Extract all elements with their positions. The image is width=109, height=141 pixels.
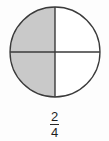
fraction-denominator: 4: [50, 126, 59, 139]
fraction-circle-diagram: 2 4: [0, 0, 109, 141]
fraction-label: 2 4: [0, 110, 109, 139]
circle-quadrants-graphic: [9, 6, 101, 99]
fraction-circle: [9, 6, 101, 99]
fraction-numerator: 2: [50, 110, 59, 123]
fraction-stack: 2 4: [50, 110, 59, 139]
